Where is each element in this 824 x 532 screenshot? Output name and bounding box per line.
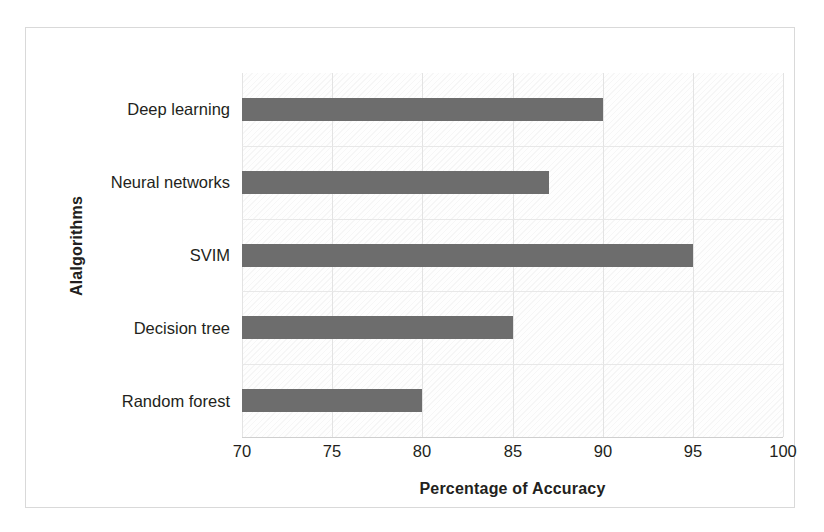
y-axis-tick-label: Deep learning — [127, 96, 230, 122]
bar — [242, 316, 513, 339]
x-axis-tick-label: 90 — [594, 442, 612, 461]
y-axis-tick-labels: Deep learningNeural networksSVIMDecision… — [82, 73, 236, 437]
x-axis-tick-labels: 707580859095100 — [242, 442, 783, 472]
y-axis-tick-label: Neural networks — [111, 169, 230, 195]
y-axis-tick-label: Decision tree — [134, 315, 230, 341]
y-gridline — [242, 364, 783, 365]
plot-area — [242, 73, 783, 437]
y-axis-tick-label: SVIM — [190, 242, 230, 268]
y-axis-tick-label: Random forest — [122, 388, 230, 414]
bar — [242, 98, 603, 121]
bar — [242, 171, 549, 194]
x-axis-tick-label: 75 — [323, 442, 341, 461]
x-axis-tick-label: 80 — [413, 442, 431, 461]
bar-chart-figure: Alalgorithms Deep learningNeural network… — [0, 0, 824, 532]
x-axis-tick-label: 70 — [233, 442, 251, 461]
x-gridline — [693, 73, 694, 437]
x-axis-line — [242, 437, 783, 438]
bar — [242, 389, 422, 412]
y-gridline — [242, 146, 783, 147]
x-axis-tick-label: 95 — [684, 442, 702, 461]
bar — [242, 244, 693, 267]
y-gridline — [242, 291, 783, 292]
y-gridline — [242, 219, 783, 220]
x-axis-title: Percentage of Accuracy — [242, 480, 783, 498]
x-gridline — [783, 73, 784, 437]
x-axis-tick-label: 85 — [504, 442, 522, 461]
x-axis-tick-label: 100 — [769, 442, 797, 461]
chart-frame: Alalgorithms Deep learningNeural network… — [25, 27, 795, 508]
